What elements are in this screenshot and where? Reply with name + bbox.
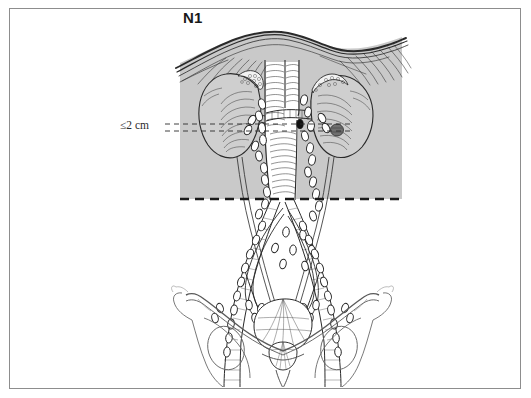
figure-n1-nodal-staging: N1 ≤2 cm xyxy=(0,0,531,398)
node-size-label: ≤2 cm xyxy=(120,119,149,131)
hilar-structure xyxy=(331,124,344,136)
great-vessels xyxy=(265,60,299,210)
stage-label-n1: N1 xyxy=(183,9,203,26)
prostate xyxy=(269,342,297,388)
anatomical-illustration xyxy=(0,0,531,398)
